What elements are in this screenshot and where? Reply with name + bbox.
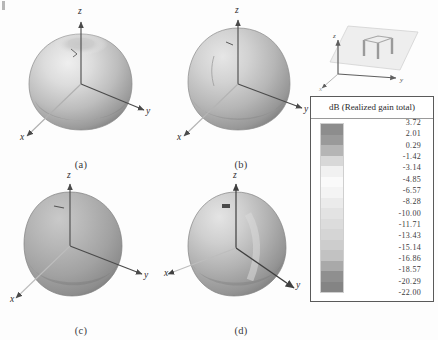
colorbar-cell bbox=[321, 177, 343, 188]
colorbar bbox=[320, 123, 344, 293]
y-axis-label-b: y bbox=[304, 104, 308, 114]
colorbar-cell bbox=[321, 261, 343, 272]
inset-z-axis-label: z bbox=[332, 32, 336, 40]
z-axis-label-a: z bbox=[78, 6, 82, 16]
panel-a: z y x (a) bbox=[2, 4, 160, 172]
colorbar-cell bbox=[321, 250, 343, 261]
radiation-pattern-a-svg bbox=[2, 4, 160, 142]
panel-c-plot: z y x bbox=[2, 170, 160, 308]
colorbar-cell bbox=[321, 240, 343, 251]
colorbar-tick: -16.86 bbox=[351, 255, 427, 263]
panel-c-caption: (c) bbox=[2, 325, 160, 336]
radiation-pattern-b-svg bbox=[162, 4, 320, 142]
z-axis-label-d: z bbox=[233, 170, 237, 180]
y-axis-label-c: y bbox=[144, 270, 148, 280]
colorbar-tick: -18.57 bbox=[351, 266, 427, 274]
colorbar-cell bbox=[321, 156, 343, 167]
panel-d-caption: (d) bbox=[162, 325, 320, 336]
panel-d-plot: z y x bbox=[162, 170, 320, 308]
lobe-surface-d bbox=[188, 192, 286, 296]
colorbar-tick: 3.72 bbox=[351, 119, 427, 127]
x-axis-label-a: x bbox=[20, 132, 24, 142]
colorbar-tick: -22.00 bbox=[351, 289, 427, 297]
colorbar-tick: -15.14 bbox=[351, 244, 427, 252]
colorbar-cell bbox=[321, 187, 343, 198]
colorbar-cell bbox=[321, 229, 343, 240]
colorbar-cell bbox=[321, 271, 343, 282]
panel-b: z y x (b) bbox=[162, 4, 320, 172]
y-axis-label-d: y bbox=[296, 280, 300, 290]
colorbar-cell bbox=[321, 145, 343, 156]
panel-a-caption: (a) bbox=[2, 159, 160, 170]
inset-x-axis-label: x bbox=[318, 85, 323, 92]
legend-title: dB (Realized gain total) bbox=[311, 102, 433, 112]
panel-c: z y x (c) bbox=[2, 170, 160, 338]
colorbar-cell bbox=[321, 208, 343, 219]
z-axis-label-b: z bbox=[235, 5, 239, 15]
inset-x-axis bbox=[322, 74, 338, 88]
panel-b-caption: (b) bbox=[162, 159, 320, 170]
colorbar-tick-list: 3.722.010.29-1.42-3.14-4.85-6.57-8.28-10… bbox=[351, 119, 427, 297]
legend-panel: dB (Realized gain total) 3.722.010.29-1.… bbox=[310, 96, 434, 302]
antenna-geometry-inset: z y x bbox=[318, 12, 430, 92]
colorbar-cell bbox=[321, 135, 343, 146]
z-axis-label-c: z bbox=[67, 170, 71, 180]
x-axis-label-d: x bbox=[164, 268, 168, 278]
colorbar-tick: -1.42 bbox=[351, 153, 427, 161]
y-axis-label-a: y bbox=[146, 106, 150, 116]
radiation-pattern-c-svg bbox=[2, 170, 160, 308]
colorbar-cell bbox=[321, 219, 343, 230]
panel-d: z y x (d) bbox=[162, 170, 320, 338]
figure-radiation-patterns: z y x (a) bbox=[0, 0, 438, 340]
panel-b-plot: z y x bbox=[162, 4, 320, 142]
inset-y-axis bbox=[338, 74, 396, 78]
x-axis-label-b: x bbox=[177, 132, 181, 142]
ground-plane bbox=[330, 26, 418, 70]
colorbar-tick: -8.28 bbox=[351, 198, 427, 206]
colorbar-tick: -20.29 bbox=[351, 278, 427, 286]
colorbar-tick: -6.57 bbox=[351, 187, 427, 195]
colorbar-tick: -3.14 bbox=[351, 164, 427, 172]
x-axis-label-c: x bbox=[10, 294, 14, 304]
lobe-surface-c bbox=[24, 192, 122, 296]
colorbar-tick: 0.29 bbox=[351, 142, 427, 150]
antenna-geometry-svg: z y x bbox=[318, 12, 430, 92]
inset-y-axis-label: y bbox=[399, 76, 404, 84]
colorbar-cell bbox=[321, 282, 343, 293]
colorbar-tick: -11.71 bbox=[351, 221, 427, 229]
panel-a-plot: z y x bbox=[2, 4, 160, 142]
colorbar-cell bbox=[321, 198, 343, 209]
colorbar-tick: -13.43 bbox=[351, 232, 427, 240]
colorbar-tick: -4.85 bbox=[351, 176, 427, 184]
colorbar-tick: 2.01 bbox=[351, 130, 427, 138]
origin-marker-d bbox=[222, 204, 230, 208]
colorbar-cell bbox=[321, 124, 343, 135]
colorbar-cell bbox=[321, 166, 343, 177]
colorbar-tick: -10.00 bbox=[351, 210, 427, 218]
lobe-surface-b bbox=[188, 28, 290, 130]
